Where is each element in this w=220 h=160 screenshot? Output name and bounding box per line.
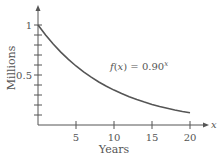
- x-tick-label: 15: [146, 132, 159, 143]
- x-axis-symbol: x: [211, 119, 217, 130]
- x-axis-arrow-icon: [203, 123, 209, 128]
- y-axis-label: Millions: [5, 45, 18, 90]
- function-annotation: f(x) = 0.90x: [109, 60, 168, 72]
- x-axis-ticks: 5101520: [73, 121, 197, 143]
- x-tick-label: 5: [73, 132, 79, 143]
- x-tick-label: 20: [184, 132, 197, 143]
- y-tick-label: 0.5: [16, 70, 32, 81]
- x-tick-label: 10: [108, 132, 121, 143]
- exponential-decay-chart: 0.51 5101520 x f(x) = 0.90x Years Millio…: [0, 0, 220, 160]
- y-axis-arrow-icon: [36, 5, 41, 11]
- x-axis-label: Years: [98, 143, 130, 156]
- y-tick-label: 1: [26, 20, 32, 31]
